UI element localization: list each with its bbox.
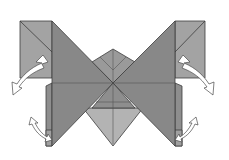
center-bottom-diamond	[83, 108, 143, 146]
origami-diagram	[0, 0, 229, 160]
